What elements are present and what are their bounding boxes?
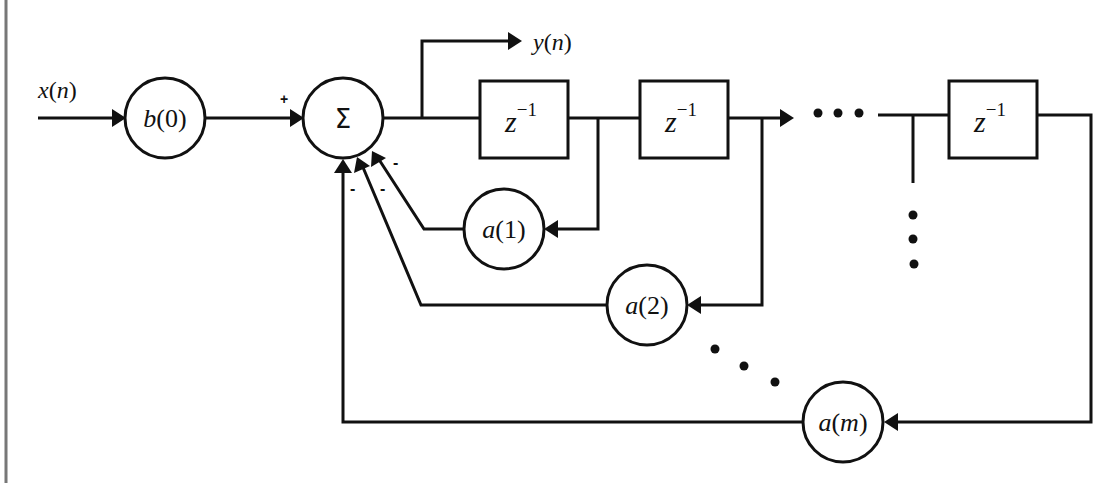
minus-sign: -: [393, 154, 398, 171]
ellipsis-horizontal: [814, 109, 864, 118]
ellipsis-vertical: [909, 211, 919, 269]
svg-text:a(m): a(m): [818, 408, 867, 437]
ellipsis-diagonal: [711, 345, 780, 387]
arrow-icon: [354, 157, 370, 173]
feedback-gain-a2: a(2): [607, 265, 687, 345]
feedback-gain-am: a(m): [803, 382, 883, 462]
arrow-icon: [544, 220, 558, 238]
feedback-gain-a1: a(1): [464, 189, 544, 269]
arrow-icon: [687, 296, 701, 314]
delay-box-2: z−1: [640, 81, 728, 158]
delay-box-1: z−1: [480, 81, 568, 158]
input-signal: x(n): [37, 77, 126, 127]
svg-text:a(2): a(2): [625, 291, 668, 320]
svg-text:Σ: Σ: [335, 104, 351, 134]
minus-sign: -: [350, 180, 355, 197]
iir-filter-diagram: x(n) b(0) + Σ y(n) z−1 z−1: [0, 0, 1119, 483]
arrow-icon: [334, 159, 352, 173]
arrow-icon: [884, 413, 898, 431]
arrow-icon: [508, 32, 522, 50]
minus-sign: -: [380, 180, 385, 197]
summer-node: Σ: [303, 78, 383, 158]
svg-text:y(n): y(n): [531, 29, 572, 55]
svg-text:b(0): b(0): [143, 104, 186, 133]
arrow-icon: [780, 109, 794, 127]
svg-text:a(1): a(1): [482, 215, 525, 244]
plus-sign: +: [280, 91, 288, 107]
svg-text:x(n): x(n): [37, 77, 77, 103]
gain-b0: b(0): [125, 78, 205, 158]
delay-box-3: z−1: [949, 81, 1037, 158]
